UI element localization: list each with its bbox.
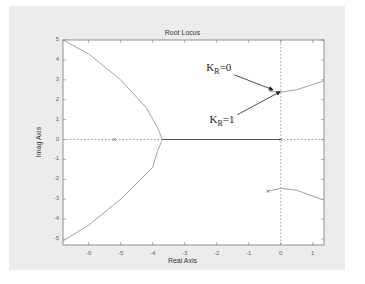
x-tick-label: -3 <box>181 250 189 256</box>
y-tick-label: 1 <box>51 116 59 122</box>
y-tick-label: -3 <box>51 195 59 201</box>
x-tick-label: -5 <box>117 250 125 256</box>
x-tick-label: 1 <box>309 250 317 256</box>
y-tick-label: -5 <box>51 235 59 241</box>
y-tick-label: 0 <box>51 136 59 142</box>
x-tick-label: -6 <box>85 250 93 256</box>
annotation-kr-0: KR=0 <box>206 61 231 76</box>
y-tick-label: -4 <box>51 215 59 221</box>
y-tick-label: -2 <box>51 175 59 181</box>
y-tick-label: 2 <box>51 96 59 102</box>
x-tick-label: -1 <box>245 250 253 256</box>
y-tick-label: 3 <box>51 76 59 82</box>
annotation-kr-1: KR=1 <box>210 113 235 128</box>
y-tick-label: 5 <box>51 36 59 42</box>
y-tick-label: -1 <box>51 155 59 161</box>
root-locus-plot <box>0 0 365 284</box>
y-tick-label: 4 <box>51 56 59 62</box>
x-tick-label: -4 <box>149 250 157 256</box>
x-tick-label: 0 <box>277 250 285 256</box>
x-tick-label: -2 <box>213 250 221 256</box>
